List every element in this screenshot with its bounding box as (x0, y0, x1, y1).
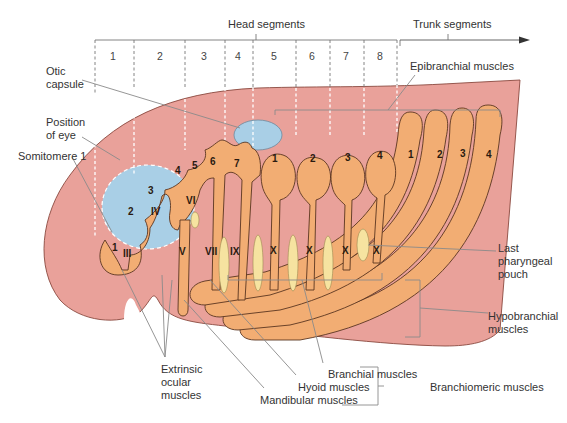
hypobranchial-label: muscles (488, 323, 529, 335)
somitomere-number: 6 (210, 156, 216, 167)
nerve-VI: VI (186, 195, 196, 206)
last-pharyngeal-pouch-label: pouch (498, 268, 528, 280)
extrinsic-ocular-label: ocular (161, 376, 191, 388)
occipital-number: 2 (310, 153, 316, 164)
somitomere-number: 1 (112, 242, 118, 253)
segment-number: 3 (201, 50, 207, 62)
nerve-X: X (270, 245, 277, 256)
segment-number: 7 (343, 50, 349, 62)
nerve-VII: VII (205, 246, 217, 257)
hypobranchial-label: Hypobranchial (488, 310, 558, 322)
segment-number: 2 (157, 50, 163, 62)
trunk-segments-label: Trunk segments (413, 18, 492, 30)
nerve-X: X (306, 245, 313, 256)
head-segments-bracket (95, 34, 530, 46)
occipital-number: 3 (345, 152, 351, 163)
extrinsic-ocular-label: Extrinsic (161, 363, 203, 375)
trunk-number: 4 (486, 149, 492, 160)
somitomere-number: 3 (148, 185, 154, 196)
segment-number: 1 (110, 50, 116, 62)
somitomere-1-label: Somitomere 1 (18, 150, 86, 162)
last-pharyngeal-pouch-label: Last (498, 242, 519, 254)
otic-capsule-label: capsule (46, 78, 84, 90)
otic-capsule-label: Otic (46, 65, 66, 77)
last-pharyngeal-pouch-label: pharyngeal (498, 255, 552, 267)
somitomere-number: 4 (175, 165, 181, 176)
branchiomeric-muscles-label: Branchiomeric muscles (430, 381, 544, 393)
head-segments-label: Head segments (228, 18, 306, 30)
hyoid-muscles-label: Hyoid muscles (298, 381, 370, 393)
nerve-III: III (123, 248, 132, 259)
segment-number: 4 (235, 50, 241, 62)
occipital-number: 1 (272, 153, 278, 164)
position-of-eye-label: Position (46, 116, 85, 128)
trunk-number: 3 (460, 148, 466, 159)
somitomere-number: 2 (128, 206, 134, 217)
trunk-number: 1 (408, 149, 414, 160)
somitomere-number: 7 (234, 158, 240, 169)
segment-number: 8 (377, 50, 383, 62)
mandibular-bar (178, 220, 190, 316)
somitomere-number: 5 (192, 160, 198, 171)
segment-numbers: 1 2 3 4 5 6 7 8 (110, 50, 383, 62)
branchial-muscles-label: Branchial muscles (328, 368, 418, 380)
segment-number: 6 (309, 50, 315, 62)
head-segmentation-diagram: Head segments Trunk segments 1 2 3 4 5 6… (0, 0, 567, 423)
nerve-IX: IX (230, 246, 240, 257)
segment-number: 5 (271, 50, 277, 62)
nerve-V: V (179, 246, 186, 257)
extrinsic-ocular-label: muscles (161, 389, 202, 401)
occipital-number: 4 (377, 150, 383, 161)
nerve-IV: IV (151, 206, 161, 217)
epibranchial-label: Epibranchial muscles (410, 60, 514, 72)
position-of-eye-label: of eye (46, 129, 76, 141)
mandibular-muscles-label: Mandibular muscles (260, 394, 358, 406)
nerve-X: X (342, 245, 349, 256)
trunk-number: 2 (437, 149, 443, 160)
nerve-X: X (373, 245, 380, 256)
